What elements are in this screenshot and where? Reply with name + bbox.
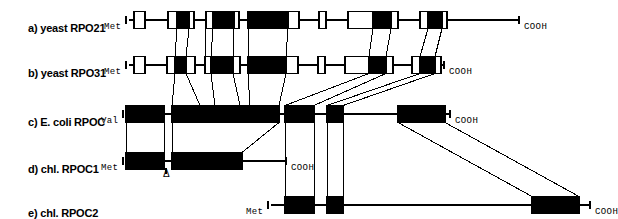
conserved-domain-box-b-7 — [248, 57, 286, 74]
homology-tie-line-a_to_b-3 — [211, 29, 213, 57]
variable-region-box-b-12 — [386, 57, 393, 74]
conserved-domain-box-c-0 — [126, 106, 164, 123]
homology-tie-line-a_to_b-1 — [186, 29, 189, 57]
variable-region-box-a-13 — [420, 12, 428, 29]
conserved-domain-box-c-2 — [285, 106, 314, 123]
homology-tie-line-b_to_c-5 — [279, 74, 286, 106]
homology-tie-line-a_to_b-7 — [369, 29, 373, 57]
homology-tie-line-b_to_c-4 — [248, 74, 250, 106]
conserved-domain-box-a-11 — [373, 12, 391, 29]
variable-region-box-a-4 — [206, 12, 213, 29]
variable-region-box-b-15 — [435, 57, 441, 74]
variable-region-box-b-3 — [186, 57, 195, 74]
conserved-domain-box-a-5 — [213, 12, 234, 29]
homology-tie-line-a_to_b-10 — [435, 29, 442, 57]
homology-tie-line-b_to_c-7 — [314, 74, 386, 106]
conserved-domain-box-b-14 — [420, 57, 435, 74]
homology-tie-line-c_to_d-3 — [242, 123, 279, 153]
connector-group-a_to_b — [175, 29, 442, 57]
conserved-domain-box-c-1 — [172, 106, 279, 123]
homology-tie-line-a_to_b-9 — [420, 29, 428, 57]
variable-region-box-b-6 — [233, 57, 240, 74]
variable-region-box-b-0 — [134, 57, 145, 74]
conserved-domain-box-c-4 — [398, 106, 445, 123]
connector-group-b_to_c — [172, 74, 435, 106]
conserved-domain-box-d-0 — [126, 153, 164, 170]
homology-tie-line-a_to_b-4 — [233, 29, 234, 57]
variable-region-box-a-6 — [234, 12, 239, 29]
homology-tie-line-b_to_c-3 — [233, 74, 240, 106]
variable-region-box-b-13 — [412, 57, 420, 74]
variable-region-box-b-8 — [286, 57, 298, 74]
variable-region-box-a-8 — [288, 12, 299, 29]
row-e-track — [268, 197, 590, 214]
variable-region-box-b-9 — [318, 57, 325, 74]
row-c-track — [123, 106, 450, 123]
variable-region-box-b-1 — [167, 57, 175, 74]
conserved-domain-box-e-0 — [285, 197, 314, 214]
row-a-track — [126, 12, 519, 29]
homology-tie-line-a_to_b-8 — [386, 29, 391, 57]
row-d-track — [123, 153, 286, 170]
conserved-domain-box-b-11 — [369, 57, 386, 74]
homology-tie-line-a_to_b-6 — [286, 29, 288, 57]
row-b-track — [126, 57, 444, 74]
homology-tie-line-b_to_c-1 — [186, 74, 200, 106]
connector-group-c_to_e — [285, 123, 579, 197]
conserved-domain-box-d-1 — [172, 153, 242, 170]
variable-region-box-a-3 — [189, 12, 194, 29]
connector-group-c_to_d — [126, 123, 279, 153]
variable-region-box-b-10 — [345, 57, 369, 74]
variable-region-box-a-10 — [348, 12, 373, 29]
conserved-domain-box-a-7 — [248, 12, 288, 29]
variable-region-box-a-12 — [391, 12, 398, 29]
variable-region-box-a-9 — [319, 12, 326, 29]
homology-tie-line-a_to_b-2 — [205, 29, 206, 57]
conserved-domain-box-e-2 — [532, 197, 579, 214]
conserved-domain-box-b-5 — [211, 57, 233, 74]
conserved-domain-box-a-2 — [177, 12, 189, 29]
conserved-domain-box-b-2 — [175, 57, 186, 74]
homology-tie-line-a_to_b-0 — [175, 29, 177, 57]
homology-tie-line-b_to_c-2 — [211, 74, 215, 106]
variable-region-box-a-0 — [134, 12, 145, 29]
homology-tie-line-b_to_c-8 — [327, 74, 420, 106]
variable-region-box-a-15 — [442, 12, 447, 29]
conserved-domain-box-c-3 — [327, 106, 343, 123]
variable-region-box-a-1 — [168, 12, 177, 29]
homology-tie-line-b_to_c-0 — [172, 74, 175, 106]
conserved-domain-box-a-14 — [428, 12, 442, 29]
conserved-domain-box-e-1 — [327, 197, 343, 214]
variable-region-box-b-4 — [205, 57, 211, 74]
